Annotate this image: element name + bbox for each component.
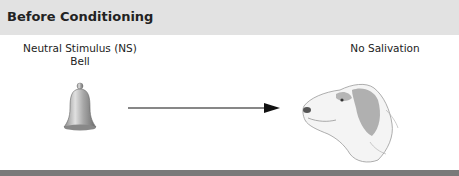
arrow-icon — [128, 101, 280, 115]
section-title: Before Conditioning — [7, 9, 153, 24]
stimulus-object: Bell — [20, 55, 140, 68]
bell-icon — [62, 82, 98, 134]
neutral-stimulus-label: Neutral Stimulus (NS) Bell — [20, 42, 140, 68]
dog-head-illustration — [300, 70, 410, 166]
response-label: No Salivation — [330, 42, 440, 54]
footer-bar — [0, 170, 459, 176]
section-header: Before Conditioning — [0, 0, 459, 35]
stimulus-name: Neutral Stimulus (NS) — [20, 42, 140, 55]
